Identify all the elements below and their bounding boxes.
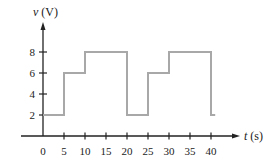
- x-tick-label: 5: [61, 145, 67, 157]
- y-tick-label: 4: [30, 88, 36, 100]
- x-tick-label: 15: [101, 145, 113, 157]
- x-tick-label: 0: [40, 145, 46, 157]
- x-tick-label: 30: [164, 145, 176, 157]
- y-axis-arrow-icon: [41, 22, 46, 30]
- x-tick-label: 20: [122, 145, 134, 157]
- y-tick-label: 2: [30, 109, 36, 121]
- step-voltage-chart: 05101520253035402468 v (V) t (s): [0, 0, 273, 165]
- y-tick-label: 6: [30, 67, 36, 79]
- y-axis-label: v (V): [33, 5, 58, 19]
- x-tick-label: 35: [185, 145, 197, 157]
- x-axis-label: t (s): [244, 129, 263, 143]
- axes: [21, 22, 240, 139]
- ticks: 05101520253035402468: [30, 46, 218, 157]
- x-tick-label: 10: [80, 145, 92, 157]
- x-axis-arrow-icon: [232, 134, 240, 139]
- voltage-waveform: [43, 52, 215, 115]
- x-tick-label: 40: [206, 145, 218, 157]
- y-tick-label: 8: [30, 46, 36, 58]
- x-tick-label: 25: [143, 145, 155, 157]
